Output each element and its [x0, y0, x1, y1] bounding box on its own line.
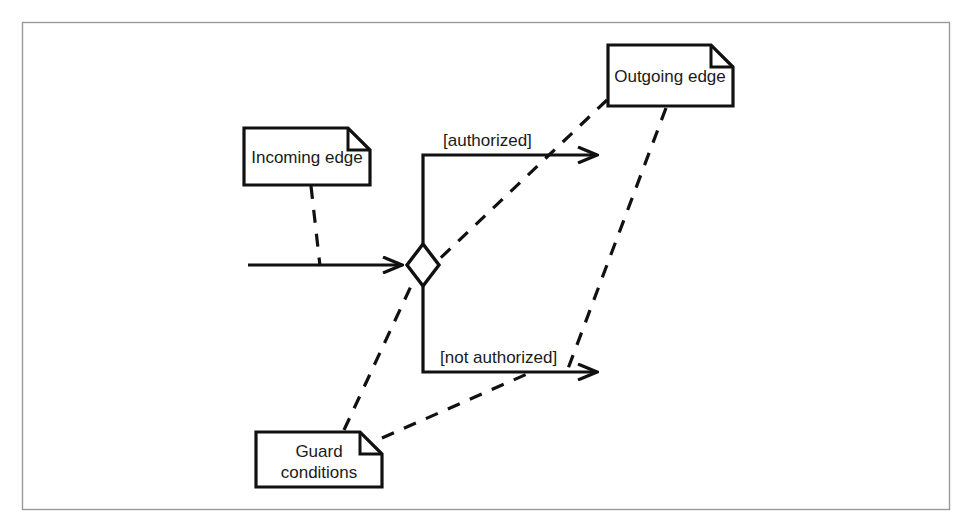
anchor-outgoing-note-lower	[566, 108, 666, 374]
decision-diamond[interactable]	[407, 244, 439, 286]
figure-caption	[22, 512, 950, 526]
guard-conditions-note[interactable]: Guard conditions	[256, 432, 382, 487]
anchor-guard-note-lower	[382, 374, 527, 438]
uml-activity-diagram: Incoming edge Outgoing edge Guard condit…	[0, 0, 971, 526]
incoming-edge-note-label: Incoming edge	[251, 148, 363, 167]
guard-conditions-note-label-line2: conditions	[281, 463, 358, 482]
guard-label-not-authorized: [not authorized]	[440, 348, 557, 367]
guard-label-authorized: [authorized]	[443, 131, 532, 150]
figure-frame	[23, 23, 950, 510]
anchor-guard-note-upper	[344, 284, 412, 430]
outgoing-edge-note[interactable]: Outgoing edge	[608, 45, 733, 106]
anchor-outgoing-note-upper	[430, 100, 607, 268]
figure-container: Incoming edge Outgoing edge Guard condit…	[0, 0, 971, 526]
authorized-edge-arrow	[423, 155, 597, 250]
outgoing-edge-note-label: Outgoing edge	[614, 67, 726, 86]
incoming-edge-note[interactable]: Incoming edge	[244, 128, 370, 185]
guard-conditions-note-label-line1: Guard	[295, 442, 342, 461]
anchor-incoming-note	[311, 186, 320, 266]
